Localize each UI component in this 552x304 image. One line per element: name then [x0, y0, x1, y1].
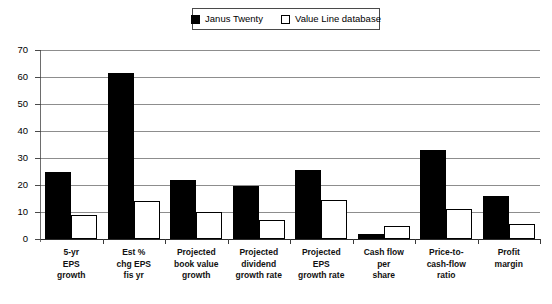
bar-series-a	[420, 150, 446, 239]
y-axis-tick-label: 50	[17, 99, 28, 109]
bar-series-b	[384, 226, 410, 240]
bar-series-b	[71, 215, 97, 239]
x-axis-category-label-line: Profit	[478, 247, 541, 259]
x-axis-category-label: Price-to-cash-flowratio	[415, 247, 478, 282]
y-axis-tick-label: 40	[17, 126, 28, 136]
x-axis-category-label-line: growth	[40, 270, 103, 282]
x-axis-category-label: Projecteddividendgrowth rate	[228, 247, 291, 282]
x-axis-category-label-line: EPS	[40, 259, 103, 271]
x-axis-category-label-line: growth rate	[228, 270, 291, 282]
x-axis-category-label-line: growth	[165, 270, 228, 282]
chart-legend: Janus Twenty Value Line database	[192, 8, 380, 30]
x-axis-category-label-line: fis yr	[103, 270, 166, 282]
y-axis-tick	[35, 239, 41, 240]
x-axis-category-label-line: Cash flow	[353, 247, 416, 259]
y-axis-tick-label: 60	[17, 72, 28, 82]
y-axis-tick-label: 20	[17, 180, 28, 190]
x-axis-category-label-line: cash-flow	[415, 259, 478, 271]
x-axis-category-label-line: growth rate	[290, 270, 353, 282]
legend-swatch-hollow-square-icon	[281, 15, 290, 24]
x-axis-category-label-line: share	[353, 270, 416, 282]
x-axis-category-label: Cash flowpershare	[353, 247, 416, 282]
x-axis-tick	[165, 239, 166, 244]
bar-series-a	[483, 196, 509, 239]
x-axis-tick	[415, 239, 416, 244]
x-axis-category-label: 5-yrEPSgrowth	[40, 247, 103, 282]
bar-series-a	[295, 170, 321, 239]
legend-entry-value-line-database: Value Line database	[281, 14, 381, 24]
x-axis-category-labels: 5-yrEPSgrowthEst %chg EPSfis yrProjected…	[40, 247, 540, 297]
x-axis-category-label-line: ratio	[415, 270, 478, 282]
x-axis-category-label-line: chg EPS	[103, 259, 166, 271]
x-axis-tick	[353, 239, 354, 244]
x-axis-tick	[540, 239, 541, 244]
x-axis-category-label-line: Projected	[165, 247, 228, 259]
legend-label-series-b: Value Line database	[295, 14, 381, 24]
x-axis-category-label: ProjectedEPSgrowth rate	[290, 247, 353, 282]
bar-series-a	[108, 73, 134, 239]
x-axis-tick	[228, 239, 229, 244]
bar-series-a	[358, 234, 384, 239]
bar-series-a	[45, 172, 71, 240]
y-axis-tick-label: 10	[17, 207, 28, 217]
bar-series-b	[321, 200, 347, 239]
x-axis-category-label-line: Price-to-	[415, 247, 478, 259]
y-axis-tick-label: 0	[23, 234, 28, 244]
x-axis-category-label-line: margin	[478, 259, 541, 271]
y-axis-labels: 706050403020100	[0, 0, 36, 304]
x-axis-category-label-line: Projected	[228, 247, 291, 259]
x-axis-tick	[103, 239, 104, 244]
bar-series-b	[259, 220, 285, 239]
x-axis-tick	[478, 239, 479, 244]
bar-series-a	[233, 186, 259, 239]
bar-series-b	[196, 212, 222, 239]
y-axis-tick-label: 70	[17, 45, 28, 55]
bar-chart: Janus Twenty Value Line database 7060504…	[0, 0, 552, 304]
x-axis-category-label-line: 5-yr	[40, 247, 103, 259]
bar-series-b	[509, 224, 535, 239]
x-axis-category-label: Profitmargin	[478, 247, 541, 270]
bar-series-b	[134, 201, 160, 239]
x-axis-category-label-line: per	[353, 259, 416, 271]
x-axis-category-label-line: EPS	[290, 259, 353, 271]
bar-series-a	[170, 180, 196, 239]
y-axis-tick-label: 30	[17, 153, 28, 163]
bar-series-layer	[40, 50, 540, 239]
x-axis-category-label-line: dividend	[228, 259, 291, 271]
bar-series-b	[446, 209, 472, 239]
x-axis-category-label-line: book value	[165, 259, 228, 271]
x-axis-tick	[290, 239, 291, 244]
x-axis-category-label: Est %chg EPSfis yr	[103, 247, 166, 282]
x-axis-category-label-line: Est %	[103, 247, 166, 259]
x-axis-category-label-line: Projected	[290, 247, 353, 259]
legend-swatch-filled-square-icon	[191, 15, 200, 24]
legend-label-series-a: Janus Twenty	[205, 14, 263, 24]
legend-entry-janus-twenty: Janus Twenty	[191, 14, 263, 24]
x-axis-category-label: Projectedbook valuegrowth	[165, 247, 228, 282]
